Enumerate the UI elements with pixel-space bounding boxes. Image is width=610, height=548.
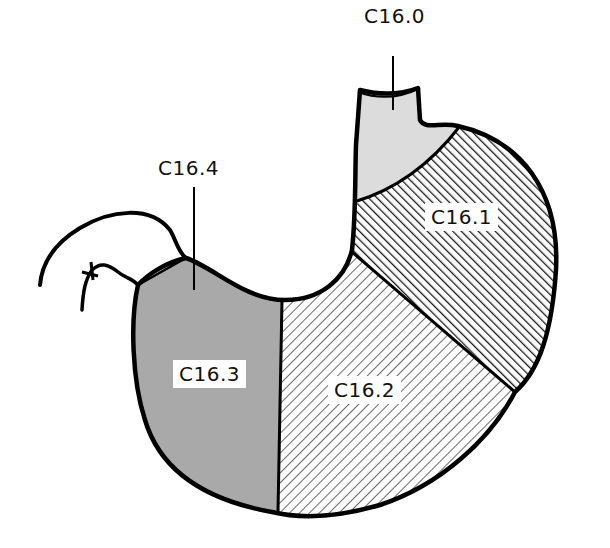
label-c16-1: C16.1 <box>425 203 498 231</box>
label-c16-2: C16.2 <box>328 376 401 404</box>
label-c16-3: C16.3 <box>173 360 246 388</box>
label-c16-4: C16.4 <box>158 156 219 180</box>
label-c16-0: C16.0 <box>364 4 425 28</box>
stomach-diagram: C16.0 C16.1 C16.2 C16.3 C16.4 <box>0 0 610 548</box>
duodenum-tick <box>91 262 93 280</box>
duodenum-inner-wall <box>82 265 138 310</box>
duodenum-tick-cross <box>82 272 98 276</box>
stomach-illustration <box>0 0 610 548</box>
